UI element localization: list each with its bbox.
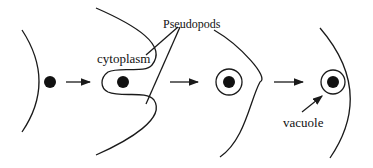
vacuole-pointer: [302, 96, 322, 112]
particle-4: [327, 76, 339, 88]
particle-3: [223, 76, 235, 88]
particle-2: [117, 76, 129, 88]
pseudopods-label: Pseudopods: [163, 18, 220, 30]
phagocytosis-diagram: Pseudopods cytoplasm vacuole: [0, 0, 373, 168]
cell-membrane-1: [22, 30, 39, 132]
vacuole-label: vacuole: [283, 116, 323, 129]
cytoplasm-label: cytoplasm: [97, 52, 150, 65]
cell-membrane-3: [214, 30, 262, 157]
cell-membrane-4: [320, 28, 350, 158]
particle-1: [44, 76, 56, 88]
